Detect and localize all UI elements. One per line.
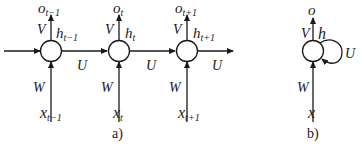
hidden-label: ht−1 [56, 25, 78, 43]
u-label: U [77, 58, 88, 73]
hidden-node [41, 41, 62, 62]
w-label: W [297, 80, 310, 95]
w-label: W [101, 80, 114, 95]
hidden-label: h [318, 25, 326, 42]
v-label: V [37, 22, 47, 37]
output-label: ot [113, 0, 124, 18]
u-label: U [212, 58, 223, 73]
rnn-diagram: ot−1 V ht−1 U W xt−1 ot V ht U W xt ot+1 [0, 0, 362, 150]
u-label: U [146, 58, 157, 73]
hidden-node [109, 41, 130, 62]
caption-b: b) [307, 126, 319, 142]
input-label: xt+1 [177, 104, 200, 123]
v-label: V [105, 22, 115, 37]
output-label: o [308, 2, 316, 18]
hidden-label: ht+1 [193, 25, 215, 43]
hidden-node [303, 41, 324, 62]
unrolled-rnn: ot−1 V ht−1 U W xt−1 ot V ht U W xt ot+1 [4, 0, 233, 142]
caption-a: a) [112, 126, 123, 142]
step-t-plus-1: ot+1 V ht+1 U W xt+1 [169, 0, 233, 123]
w-label: W [169, 80, 182, 95]
output-label: ot+1 [175, 0, 197, 18]
w-label: W [33, 80, 46, 95]
hidden-node [177, 41, 198, 62]
hidden-label: ht [125, 25, 136, 43]
input-label: x [307, 104, 315, 121]
folded-rnn: o V h U W x b) [297, 2, 356, 142]
v-label: V [301, 26, 311, 41]
step-t-minus-1: ot−1 V ht−1 U W xt−1 [33, 0, 107, 123]
u-label: U [345, 46, 356, 61]
input-label: xt−1 [39, 104, 62, 123]
step-t: ot V ht U W xt [101, 0, 175, 123]
v-label: V [173, 22, 183, 37]
output-label: ot−1 [38, 0, 60, 18]
input-label: xt [112, 104, 123, 123]
